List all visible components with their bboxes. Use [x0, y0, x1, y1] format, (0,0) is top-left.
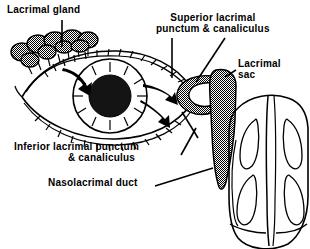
turbinate-superior-left	[240, 119, 259, 169]
turbinate-middle-left	[237, 175, 257, 225]
arrow-medial-lower	[140, 100, 170, 128]
nasal-cavity	[229, 95, 308, 249]
label-line-1: Superior lacrimal	[170, 12, 255, 23]
label-line-2: sac	[238, 69, 281, 80]
label-line-2: punctum & canaliculus	[156, 23, 270, 34]
label-lacrimal-gland: Lacrimal gland	[7, 4, 80, 15]
nasal-septum	[266, 96, 269, 246]
leader-nasolacrimal-duct	[155, 168, 213, 186]
lacrimal-gland	[11, 30, 98, 67]
leader-inferior-punctum	[182, 112, 198, 138]
nose-outline	[229, 95, 308, 249]
turbinate-middle-right	[284, 175, 304, 225]
anatomy-illustration	[0, 0, 310, 249]
lacrimal-apparatus-figure: Lacrimal gland Superior lacrimalpunctum …	[0, 0, 310, 249]
arrow-upper-flow	[62, 68, 92, 96]
label-line-2: & canaliculus	[14, 152, 139, 163]
label-lacrimal-sac: Lacrimalsac	[238, 58, 281, 80]
pupil	[89, 75, 131, 117]
nasal-septum-2	[273, 96, 276, 246]
label-superior-lacrimal-punctum: Superior lacrimalpunctum & canaliculus	[156, 12, 270, 34]
label-nasolacrimal-duct: Nasolacrimal duct	[48, 177, 138, 188]
turbinate-superior-right	[283, 119, 302, 169]
outer-canthus-fold	[15, 86, 22, 97]
arrow-medial-upper	[143, 84, 178, 105]
label-inferior-lacrimal-punctum: Inferior lacrimal punctum& canaliculus	[14, 141, 139, 163]
leader-inferior-punctum-2	[181, 128, 196, 155]
label-line-1: Inferior lacrimal punctum	[14, 141, 139, 152]
nasal-floor-left	[230, 224, 266, 233]
label-line-1: Lacrimal	[238, 58, 281, 69]
